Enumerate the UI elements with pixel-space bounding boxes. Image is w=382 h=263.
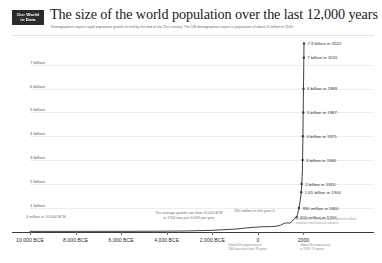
y-axis-tick-label: 5 billion — [30, 107, 45, 112]
milestone-label: 2 billion in 1920 — [305, 182, 335, 187]
milestone-label: 7.9 billion in 2022 — [308, 41, 342, 46]
milestone-label: 7 billion in 2015 — [307, 55, 337, 60]
milestone-label: 6 billion in 1999 — [307, 86, 337, 91]
chart-header: Our World in Data The size of the world … — [12, 9, 374, 35]
growth-rate-note: The average growth rate from 10,000 BCE … — [155, 211, 223, 221]
footnote-left: Global life expectancy in 1800 was less … — [228, 243, 267, 252]
gridline — [30, 65, 374, 66]
x-axis-tick — [167, 232, 168, 235]
milestone-label: 1.65 billion in 1900 — [305, 190, 341, 195]
milestone-label: 4 billion in 1975 — [306, 134, 336, 139]
logo-line-2: in Data — [20, 18, 35, 22]
footnote-right-line-2: in 2019: 73 years — [300, 247, 330, 251]
owid-logo[interactable]: Our World in Data — [12, 10, 44, 25]
y-axis-tick-label: 1 billion — [30, 202, 45, 207]
milestone-label: 4 million in 10,000 BCE — [26, 215, 66, 219]
x-axis-tick — [76, 232, 77, 235]
y-axis-tick-label: 6 billion — [30, 83, 45, 88]
data-source-note-line-2: estimates and historical research — [296, 222, 356, 226]
page-title: The size of the world population over th… — [50, 6, 378, 23]
x-axis-tick — [30, 232, 31, 235]
x-axis-tick — [121, 232, 122, 235]
data-source-note: Data source: The World Bank, based on of… — [296, 218, 356, 226]
x-axis-tick-label: 8,000 BCE — [63, 237, 88, 243]
y-axis-tick-label: 4 billion — [30, 131, 45, 136]
growth-rate-note-line-2: to 1700 was just 0.04% per year — [155, 216, 223, 221]
chart-page: Our World in Data The size of the world … — [0, 0, 382, 263]
x-axis-tick — [212, 232, 213, 235]
milestone-label: 190 million in the year 0 — [234, 209, 275, 213]
milestone-label: 5 billion in 1987 — [307, 110, 337, 115]
x-axis-tick-label: 6,000 BCE — [109, 237, 134, 243]
milestone-label: 990 million in 1800 — [302, 206, 338, 211]
x-axis-tick-label: 10,000 BCE — [16, 237, 44, 243]
footnote-left-line-2: 1800 was less than 30 years — [228, 247, 267, 251]
y-axis-tick-label: 3 billion — [30, 155, 45, 160]
milestone-label: 3 billion in 1960 — [306, 158, 336, 163]
y-axis-tick-label: 2 billion — [30, 179, 45, 184]
x-axis-tick-label: 4,000 BCE — [154, 237, 179, 243]
x-axis-tick — [303, 232, 304, 235]
x-axis-tick — [258, 232, 259, 235]
footnote-right: Global life expectancy in 2019: 73 years — [300, 243, 330, 252]
page-subtitle: Demographers expect rapid population gro… — [51, 25, 294, 29]
x-axis-line — [12, 232, 374, 233]
y-axis-tick-label: 7 billion — [30, 60, 45, 65]
x-axis-tick-label: 2,000 BCE — [200, 237, 225, 243]
